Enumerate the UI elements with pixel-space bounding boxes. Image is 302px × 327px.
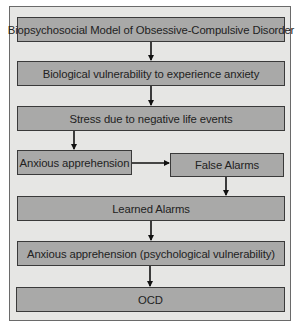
arrows-layer — [0, 0, 302, 327]
